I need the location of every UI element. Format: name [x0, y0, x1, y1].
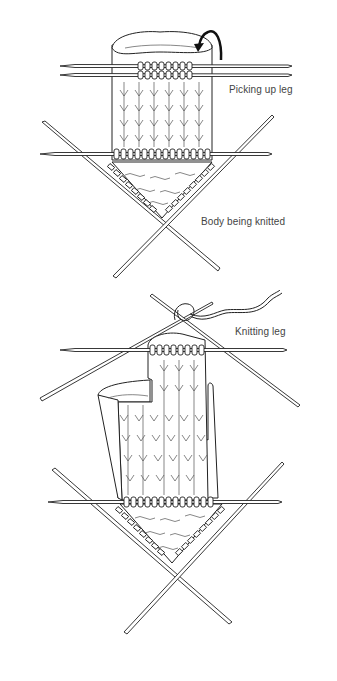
- sock-body-triangle: [120, 504, 222, 563]
- illustration-picking-up-leg: Picking up leg Body being knitted: [0, 0, 337, 290]
- knitting-diagram-bottom: [0, 290, 337, 681]
- label-picking-up-leg: Picking up leg: [229, 84, 293, 95]
- sock-leg: [118, 333, 208, 500]
- sock-cuff: [112, 32, 212, 54]
- knitting-diagram-top: [0, 0, 337, 290]
- illustration-knitting-leg: Knitting leg: [0, 290, 337, 681]
- label-knitting-leg: Knitting leg: [235, 326, 286, 337]
- needle-bottom-horizontal: [48, 501, 282, 504]
- label-body-being-knitted: Body being knitted: [201, 216, 285, 227]
